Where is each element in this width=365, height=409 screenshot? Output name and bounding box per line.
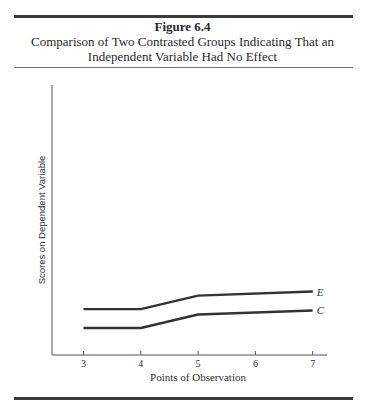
x-tick-label: 6 — [253, 358, 258, 369]
series-label-c: C — [317, 304, 325, 316]
series-line-e — [84, 292, 313, 310]
x-tick-label: 4 — [138, 358, 143, 369]
bottom-rule — [14, 397, 353, 400]
series-label-e: E — [316, 286, 324, 298]
series-line-c — [84, 310, 313, 328]
x-tick-label: 3 — [81, 358, 86, 369]
y-axis-label: Scores on Dependent Variable — [36, 156, 47, 285]
x-tick-label: 5 — [196, 358, 201, 369]
line-chart: EC 34567 Scores on Dependent Variable Po… — [0, 0, 365, 409]
plot-area: EC — [84, 286, 325, 328]
axes: 34567 — [52, 85, 327, 369]
x-axis-label: Points of Observation — [150, 371, 246, 383]
x-tick-label: 7 — [310, 358, 315, 369]
